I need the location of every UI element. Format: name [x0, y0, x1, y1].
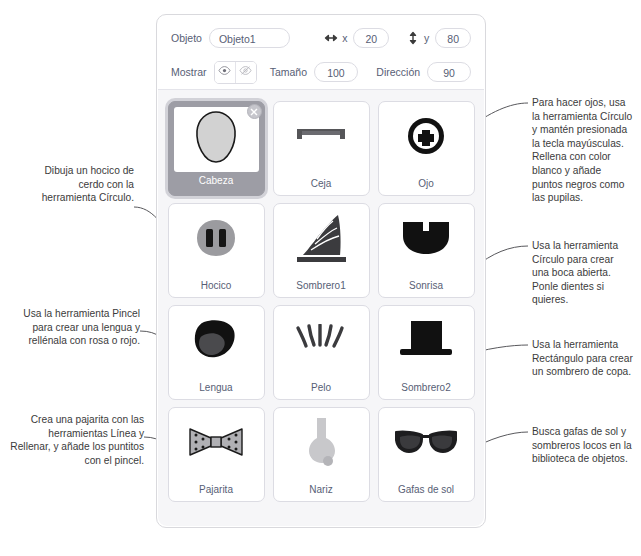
sprite-card-label: Sombrero1	[274, 275, 369, 297]
sprite-card-gafas-de-sol[interactable]: Gafas de sol	[378, 407, 475, 502]
sprite-thumb	[169, 408, 264, 479]
size-label: Tamaño	[270, 66, 307, 78]
eye-pixel-icon	[403, 113, 449, 163]
sprite-thumb	[274, 408, 369, 479]
sprite-card-label: Lengua	[169, 377, 264, 399]
snout-icon	[194, 218, 238, 262]
sprite-card-nariz[interactable]: Nariz	[273, 407, 370, 502]
sprite-info-row-1: Objeto Objeto1 x 20 y 80	[171, 24, 471, 52]
sprite-card-pajarita[interactable]: Pajarita	[168, 407, 265, 502]
sprite-card-label: Gafas de sol	[379, 479, 474, 501]
sprite-thumb	[379, 204, 474, 275]
open-mouth-icon	[400, 220, 452, 260]
top-hat-icon	[396, 319, 456, 365]
sprite-card-lengua[interactable]: Lengua	[168, 305, 265, 400]
eyebrow-icon	[292, 123, 350, 153]
show-label: Mostrar	[171, 66, 207, 78]
sprite-card-sombrero2[interactable]: Sombrero2	[378, 305, 475, 400]
sprite-card-label: Ceja	[274, 173, 369, 195]
sprite-card-label: Sonrisa	[379, 275, 474, 297]
note-gafas: Busca gafas de sol y sombreros locos en …	[532, 425, 634, 466]
sprite-card-cabeza[interactable]: Cabeza	[168, 101, 265, 196]
sprite-thumb	[169, 306, 264, 377]
note-ojo: Para hacer ojos, usa la herramienta Círc…	[532, 96, 634, 205]
hair-strands-icon	[293, 324, 349, 360]
delete-sprite-button[interactable]	[247, 104, 262, 119]
sprite-card-label: Pelo	[274, 377, 369, 399]
y-label: y	[424, 32, 429, 44]
sprite-thumb	[379, 102, 474, 173]
sprite-card-ojo[interactable]: Ojo	[378, 101, 475, 196]
sprite-card-label: Sombrero2	[379, 377, 474, 399]
sprite-card-sombrero1[interactable]: Sombrero1	[273, 203, 370, 298]
close-icon	[250, 108, 258, 116]
note-sonrisa: Usa la herramienta Círculo para crear un…	[532, 239, 624, 307]
sprite-thumb	[379, 408, 474, 479]
vertical-arrow-icon	[406, 31, 420, 45]
sprite-panel: Objeto Objeto1 x 20 y 80 Mostrar	[156, 14, 486, 528]
tongue-icon	[190, 318, 242, 366]
hide-sprite-button[interactable]	[235, 62, 256, 83]
direction-input[interactable]: 90	[427, 62, 471, 82]
sprite-info-row-2: Mostrar	[171, 58, 471, 86]
sprite-card-pelo[interactable]: Pelo	[273, 305, 370, 400]
sprite-thumb	[274, 204, 369, 275]
sprite-thumb	[169, 204, 264, 275]
show-sprite-button[interactable]	[215, 62, 235, 83]
sprite-thumb	[379, 306, 474, 377]
sprite-grid: Cabeza	[158, 90, 484, 502]
size-input[interactable]: 100	[314, 62, 358, 82]
sprite-card-label: Pajarita	[169, 479, 264, 501]
sprite-card-label: Ojo	[379, 173, 474, 195]
sprite-thumb	[174, 107, 259, 172]
visibility-toggle-group[interactable]	[214, 61, 257, 84]
pig-head-outline-icon	[193, 110, 239, 170]
eye-closed-icon	[239, 63, 252, 81]
sprite-card-ceja[interactable]: Ceja	[273, 101, 370, 196]
sprite-list-area: Cabeza	[158, 89, 484, 526]
sunglasses-icon	[394, 429, 458, 459]
sprite-info-pane: Objeto Objeto1 x 20 y 80 Mostrar	[157, 15, 485, 89]
sprite-card-sonrisa[interactable]: Sonrisa	[378, 203, 475, 298]
object-name-input[interactable]: Objeto1	[209, 28, 291, 48]
note-hocico: Dibuja un hocico de cerdo con la herrami…	[24, 164, 134, 205]
sprite-thumb	[274, 306, 369, 377]
x-input[interactable]: 20	[353, 28, 389, 48]
sprite-card-label: Hocico	[169, 275, 264, 297]
sprite-thumb	[274, 102, 369, 173]
nose-icon	[304, 416, 338, 472]
y-input[interactable]: 80	[435, 28, 471, 48]
note-lengua: Usa la herramienta Pincel para crear una…	[14, 307, 140, 348]
eye-open-icon	[218, 63, 231, 81]
x-label: x	[342, 32, 347, 44]
sprite-card-label: Cabeza	[174, 172, 259, 190]
sprite-card-label: Nariz	[274, 479, 369, 501]
note-pajarita: Crea una pajarita con las herramientas L…	[10, 413, 144, 467]
horizontal-arrow-icon	[324, 31, 338, 45]
witch-hat-icon	[292, 211, 350, 269]
note-sombrero2: Usa la herramienta Rectángulo para crear…	[532, 338, 636, 379]
direction-label: Dirección	[376, 66, 420, 78]
object-label: Objeto	[171, 32, 202, 44]
sprite-card-hocico[interactable]: Hocico	[168, 203, 265, 298]
bow-tie-icon	[187, 426, 245, 462]
